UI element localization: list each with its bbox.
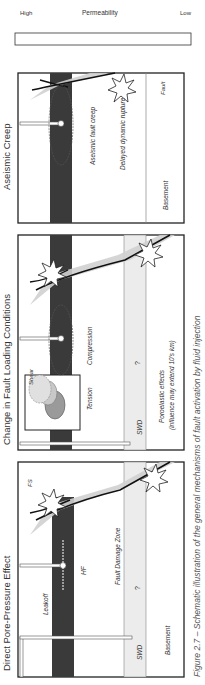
permeability-legend: High Permeability Low [15,9,192,45]
label-unknown: ? [134,361,141,365]
hf-injection-point [58,121,64,127]
label-aseismic-fault-creep: Aseismic fault creep [89,106,97,166]
hf-well [20,122,60,125]
figure-container: Figure 2.7 – Schematic illustration of t… [0,0,205,685]
panel-direct-pore-pressure: Direct Pore-Pressure Effect FS Leakoff H… [1,462,184,677]
label-fault-damage-zone: Fault Damage Zone [114,527,122,585]
label-poroelastic: Poroelastic effects [158,369,165,423]
label-delayed-rupture: Delayed dynamic rupture [119,97,127,170]
swd-well [20,442,130,445]
label-fault: Fault [160,81,166,95]
hf-well [20,337,60,340]
label-tension: Tension [86,387,93,410]
swd-well [20,637,23,677]
reservoir-layer [50,73,72,223]
fault-activation-figure: Figure 2.7 – Schematic illustration of t… [0,0,205,685]
hf-well [20,564,62,567]
legend-high-label: High [20,10,32,16]
figure-caption: Figure 2.7 – Schematic illustration of t… [192,315,202,677]
panel-title: Aseismic Creep [1,123,12,190]
label-influence: (influence may extend 10's km) [168,340,176,430]
label-compression: Compression [86,326,94,365]
label-basement: Basement [164,625,171,655]
label-swd: SWD [136,420,143,435]
swd-aquifer-layer [124,462,146,677]
label-fs: FS [27,479,33,487]
swd-well-vertical [20,636,132,639]
label-unknown: ? [134,586,141,590]
panel-aseismic-creep: Aseismic Creep Aseismic fault creep Dela… [1,73,184,223]
legend-low-label: Low [180,10,192,16]
label-shear: Shear [28,368,34,385]
panel-fault-loading: Change in Fault Loading Conditions Shear… [1,235,184,450]
panel-title: Change in Fault Loading Conditions [1,294,12,445]
hf-injection-point [58,336,64,342]
panel-title: Direct Pore-Pressure Effect [1,555,12,671]
swd-aquifer-layer [124,235,146,450]
label-basement: Basement [162,180,169,210]
permeability-scale-bar [15,33,191,45]
label-swd: SWD [136,645,143,660]
label-leakoff: Leakoff [42,592,49,615]
legend-title: Permeability [82,9,119,17]
label-hf: HF [80,565,87,575]
